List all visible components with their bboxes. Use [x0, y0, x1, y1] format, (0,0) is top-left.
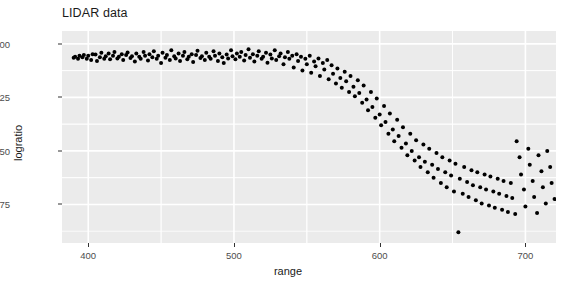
data-point — [365, 98, 369, 102]
data-point — [168, 58, 172, 62]
x-tick-label: 400 — [80, 250, 96, 261]
data-point — [344, 79, 348, 83]
data-point — [309, 71, 313, 75]
data-point — [308, 54, 312, 58]
data-point — [182, 50, 186, 54]
data-point — [318, 74, 322, 78]
x-tick-mark — [525, 243, 526, 247]
data-point — [107, 51, 111, 55]
data-point — [488, 175, 492, 179]
data-point — [391, 128, 395, 132]
data-point — [325, 58, 329, 62]
data-point — [292, 65, 296, 69]
data-point — [537, 153, 541, 157]
data-point — [519, 172, 523, 176]
data-point — [550, 181, 554, 185]
lidar-scatter-chart: LIDAR data 0.00-0.25-0.50-0.75 400500600… — [0, 0, 576, 289]
y-tick-label: -0.25 — [0, 92, 10, 103]
data-point — [553, 197, 556, 201]
data-point — [484, 187, 488, 191]
data-point — [242, 59, 246, 63]
data-point — [216, 59, 220, 63]
data-point — [443, 170, 447, 174]
data-point — [104, 54, 108, 58]
x-tick-label: 500 — [226, 250, 242, 261]
data-point — [400, 146, 404, 150]
data-point — [95, 59, 99, 63]
data-point — [217, 51, 221, 55]
data-point — [190, 52, 194, 56]
data-point — [440, 155, 444, 159]
data-point — [395, 118, 399, 122]
data-point — [526, 147, 530, 151]
data-point — [225, 53, 229, 57]
data-point — [330, 63, 334, 67]
x-tick-mark — [88, 243, 89, 247]
data-point — [397, 134, 401, 138]
data-point — [98, 55, 102, 59]
data-point — [427, 147, 431, 151]
data-point — [338, 76, 342, 80]
data-point — [147, 52, 151, 56]
data-point — [426, 170, 430, 174]
data-point — [226, 56, 230, 60]
data-point — [541, 185, 545, 189]
data-point — [465, 180, 469, 184]
data-point — [252, 59, 256, 63]
data-point — [296, 59, 300, 63]
data-point — [238, 55, 242, 59]
data-point — [121, 58, 125, 62]
data-point — [544, 201, 548, 205]
data-point — [500, 208, 504, 212]
data-point — [213, 54, 217, 58]
data-point — [401, 125, 405, 129]
data-point — [375, 96, 379, 100]
data-point — [414, 138, 418, 142]
data-point — [373, 116, 377, 120]
data-point — [178, 59, 182, 63]
data-point — [413, 159, 417, 163]
data-point — [159, 61, 163, 65]
data-point — [410, 149, 414, 153]
y-axis-title: logratio — [12, 93, 24, 193]
data-point — [268, 53, 272, 57]
data-point — [299, 55, 303, 59]
data-point — [349, 74, 353, 78]
data-point — [82, 53, 86, 57]
data-point — [139, 57, 143, 61]
data-point — [130, 54, 134, 58]
x-tick-mark — [380, 243, 381, 247]
data-point — [340, 86, 344, 90]
data-point — [518, 155, 522, 159]
data-point — [212, 49, 216, 53]
data-point — [522, 187, 526, 191]
data-point — [366, 108, 370, 112]
data-point — [229, 48, 233, 52]
data-point — [209, 57, 213, 61]
data-point — [290, 54, 294, 58]
data-point — [108, 57, 112, 61]
data-point — [471, 183, 475, 187]
data-point — [449, 174, 453, 178]
data-point — [384, 120, 388, 124]
data-point — [86, 54, 90, 58]
data-point — [200, 54, 204, 58]
data-point — [247, 47, 251, 51]
data-point — [261, 55, 265, 59]
data-point — [478, 185, 482, 189]
data-point — [504, 194, 508, 198]
data-point — [244, 53, 248, 57]
data-point — [386, 132, 390, 136]
data-point — [146, 59, 150, 63]
plot-panel — [62, 31, 556, 243]
data-point — [233, 57, 237, 61]
data-point — [506, 210, 510, 214]
data-point — [203, 58, 207, 62]
data-point — [152, 49, 156, 53]
data-point — [239, 50, 243, 54]
y-tick-label: -0.75 — [0, 199, 10, 210]
data-point — [487, 204, 491, 208]
data-point — [439, 181, 443, 185]
x-tick-label: 700 — [517, 250, 533, 261]
data-point — [257, 49, 261, 53]
